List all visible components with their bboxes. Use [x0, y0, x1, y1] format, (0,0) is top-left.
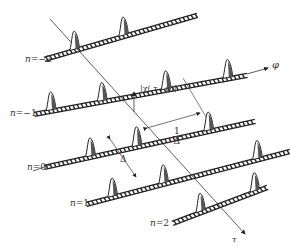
delta-label: Δ [120, 155, 127, 164]
row-label-n-1: n=1 [70, 199, 89, 208]
row-label-n-2: n=2 [150, 219, 169, 228]
row-label-n-0: n=0 [27, 163, 46, 172]
tau-axis-label: τ [232, 236, 236, 244]
phi-axis [247, 68, 268, 74]
inverse-delta-label: 1 Δ [173, 127, 181, 146]
row-label-n-minus-2: n=−2 [25, 55, 52, 64]
phi-axis-label: φ [272, 60, 279, 70]
row-label-n-minus-1: n=−1 [10, 109, 37, 118]
pulse-train-diagram [0, 0, 290, 249]
inverse-delta-denominator: Δ [173, 137, 181, 146]
pulse-row [44, 112, 256, 169]
amplitude-label: |χ( τ , φ)| [140, 85, 177, 93]
